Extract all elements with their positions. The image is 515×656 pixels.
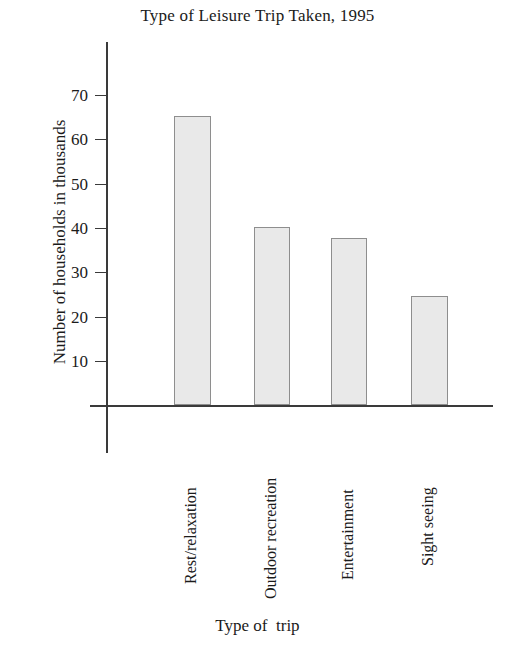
- y-axis-tick: [95, 361, 108, 362]
- chart-page: Type of Leisure Trip Taken, 1995 70 60 5…: [0, 0, 515, 656]
- bar-rest-relaxation[interactable]: [174, 116, 211, 405]
- bar-sight-seeing[interactable]: [411, 296, 448, 405]
- y-axis-title: Number of households in thousands: [50, 77, 70, 407]
- y-axis-tick: [95, 228, 108, 229]
- x-axis-category-label-rest-relaxation: Rest/relaxation: [183, 487, 199, 584]
- x-axis-line: [90, 405, 493, 407]
- x-axis-title: Type of trip: [0, 616, 515, 636]
- x-axis-category-label-entertainment: Entertainment: [340, 489, 356, 580]
- y-axis-line: [106, 42, 108, 453]
- y-axis-tick: [95, 184, 108, 185]
- x-axis-category-label-sight-seeing: Sight seeing: [420, 487, 436, 566]
- bar-entertainment[interactable]: [331, 238, 367, 405]
- y-axis-tick: [95, 272, 108, 273]
- y-axis-tick: [95, 317, 108, 318]
- bar-outdoor-recreation[interactable]: [254, 227, 290, 405]
- y-axis-tick: [95, 95, 108, 96]
- x-axis-category-label-outdoor-recreation: Outdoor recreation: [263, 478, 279, 599]
- y-axis-tick: [95, 139, 108, 140]
- plot-area: 70 60 50 40 30 20 10 Number of household…: [0, 0, 515, 656]
